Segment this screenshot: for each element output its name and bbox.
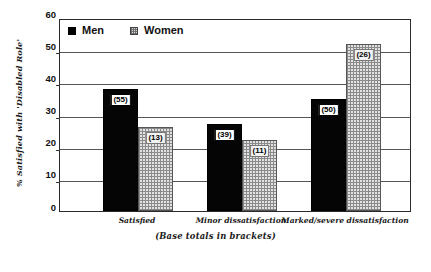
bar-value-label: (11) bbox=[250, 145, 270, 157]
hatched-gray-square-icon bbox=[130, 27, 138, 35]
bar-value-label: (50) bbox=[318, 104, 338, 116]
y-tick-label: 60 bbox=[34, 10, 56, 19]
bar-men-satisfied: (55) bbox=[103, 89, 138, 211]
y-tick-label: 50 bbox=[34, 42, 56, 51]
legend-label: Women bbox=[144, 25, 184, 36]
bar-men-minor-dissatisfaction: (39) bbox=[207, 124, 242, 211]
bar-value-label: (55) bbox=[110, 94, 130, 106]
x-tick-label-minor-dissatisfaction: Minor dissatisfaction bbox=[196, 216, 287, 225]
bar-women-minor-dissatisfaction: (11) bbox=[242, 140, 277, 211]
x-tick-label-marked-severe-dissatisfaction: Marked/severe dissatisfaction bbox=[281, 216, 408, 225]
bar-chart: % Satisfied with 'Disabled Role' 60 50 4… bbox=[0, 0, 431, 272]
legend: Men Women bbox=[68, 25, 184, 36]
y-tick-label: 30 bbox=[34, 106, 56, 115]
y-axis-tick-labels: 60 50 40 30 20 10 0 bbox=[34, 14, 56, 212]
bar-women-satisfied: (13) bbox=[138, 127, 173, 211]
bar-women-marked-severe-dissatisfaction: (26) bbox=[346, 44, 381, 211]
y-tick-label: 0 bbox=[34, 203, 56, 212]
y-axis-title: % Satisfied with 'Disabled Role' bbox=[12, 8, 26, 218]
y-tick-label: 10 bbox=[34, 170, 56, 179]
x-axis-tick-labels: Satisfied Minor dissatisfaction Marked/s… bbox=[59, 216, 411, 232]
bar-value-label: (13) bbox=[145, 132, 165, 144]
bar-value-label: (39) bbox=[214, 129, 234, 141]
plot-area: Men Women (55) (13) (39) (11) bbox=[59, 19, 411, 212]
y-tick-label: 20 bbox=[34, 138, 56, 147]
bars-layer: (55) (13) (39) (11) (50) (26) bbox=[60, 20, 410, 211]
solid-black-square-icon bbox=[68, 27, 76, 35]
x-tick-label-satisfied: Satisfied bbox=[119, 216, 156, 225]
legend-item-women: Women bbox=[130, 25, 184, 36]
x-axis-caption: (Base totals in brackets) bbox=[0, 231, 431, 241]
legend-label: Men bbox=[82, 25, 104, 36]
bar-men-marked-severe-dissatisfaction: (50) bbox=[311, 99, 346, 211]
y-tick-label: 40 bbox=[34, 74, 56, 83]
bar-value-label: (26) bbox=[353, 49, 373, 61]
legend-item-men: Men bbox=[68, 25, 104, 36]
